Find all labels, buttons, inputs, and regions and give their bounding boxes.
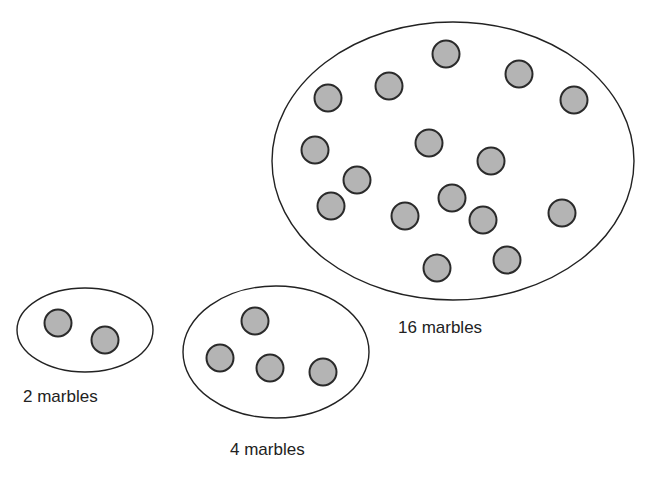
marble-icon — [416, 130, 443, 157]
marble-icon — [494, 247, 521, 274]
marble-icon — [433, 41, 460, 68]
group-sixteen — [272, 22, 634, 300]
group-two — [17, 288, 153, 372]
label-16-marbles: 16 marbles — [398, 318, 482, 338]
marble-icon — [45, 310, 72, 337]
marble-icon — [478, 148, 505, 175]
marble-icon — [439, 185, 466, 212]
marble-diagram — [0, 0, 652, 477]
marble-icon — [561, 87, 588, 114]
group-outline — [17, 288, 153, 372]
marble-icon — [376, 73, 403, 100]
marble-icon — [424, 255, 451, 282]
marble-icon — [392, 203, 419, 230]
label-4-marbles: 4 marbles — [230, 440, 305, 460]
marble-icon — [310, 359, 337, 386]
marble-icon — [506, 61, 533, 88]
marble-icon — [302, 137, 329, 164]
marble-icon — [549, 200, 576, 227]
label-2-marbles: 2 marbles — [23, 387, 98, 407]
marble-icon — [470, 207, 497, 234]
marble-icon — [207, 345, 234, 372]
marble-icon — [92, 327, 119, 354]
group-four — [183, 286, 369, 418]
marble-icon — [242, 308, 269, 335]
marble-icon — [315, 85, 342, 112]
marble-icon — [257, 355, 284, 382]
marble-icon — [344, 167, 371, 194]
marble-icon — [318, 193, 345, 220]
